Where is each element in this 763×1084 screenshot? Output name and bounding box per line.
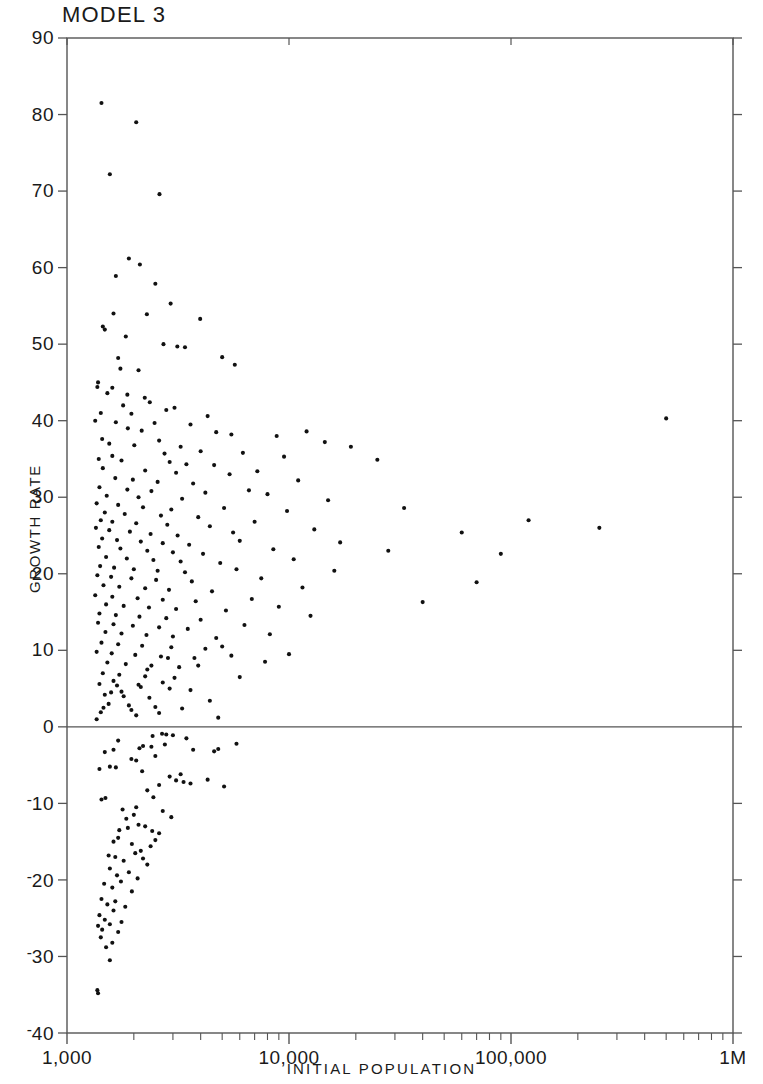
y-tick-label: 90 — [0, 27, 54, 49]
y-tick-label: 50 — [0, 333, 54, 355]
axis-ticks — [58, 38, 742, 1044]
x-tick-label: 10,000 — [258, 1047, 319, 1069]
y-tick-label: -40 — [0, 1021, 54, 1045]
y-tick-label: 60 — [0, 257, 54, 279]
plot-canvas — [0, 0, 763, 1084]
y-tick-label: 10 — [0, 639, 54, 661]
y-tick-label: -10 — [0, 791, 54, 815]
plot-frame — [67, 38, 733, 1033]
y-tick-label: 40 — [0, 410, 54, 432]
x-tick-label: 1M — [719, 1047, 746, 1069]
y-tick-label: 30 — [0, 486, 54, 508]
data-points — [93, 101, 668, 995]
y-tick-label: 80 — [0, 104, 54, 126]
y-tick-label: 70 — [0, 180, 54, 202]
x-tick-label: 100,000 — [475, 1047, 547, 1069]
y-tick-label: -20 — [0, 868, 54, 892]
y-tick-label: 0 — [0, 716, 54, 738]
y-tick-label: -30 — [0, 944, 54, 968]
scatter-plot-figure: MODEL 3 GROWTH RATE INITIAL POPULATION 9… — [0, 0, 763, 1084]
x-tick-label: 1,000 — [42, 1047, 92, 1069]
y-tick-label: 20 — [0, 563, 54, 585]
